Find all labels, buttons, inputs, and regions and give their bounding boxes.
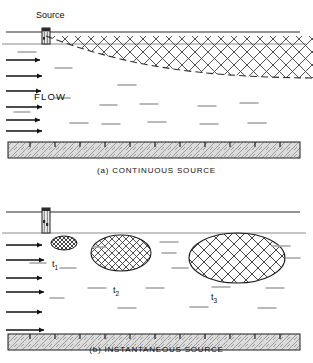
flow-arrow [6,74,42,79]
t3-sub: 3 [214,297,218,304]
source-pipe-b [42,208,50,233]
time-label-t1: t1 [52,259,58,271]
caption-panel-b: (b) INSTANTANEOUS SOURCE [0,345,313,354]
t1-sub: 1 [55,264,59,271]
flow-arrow [6,58,40,63]
flow-arrow [6,328,44,333]
panel-instantaneous-source: Source FLOW [0,190,313,363]
stream-bed [8,142,300,158]
flow-arrows-b [6,243,44,333]
cloud-t1 [51,236,77,250]
panel-continuous-source: Source FLOW [0,0,313,190]
flow-arrow [6,310,42,315]
flow-arrow [6,290,44,295]
cloud-t3 [189,233,285,283]
flow-arrow [6,129,42,134]
flow-arrow [6,276,42,281]
cloud-t2 [91,235,151,271]
flow-arrow [6,105,42,110]
t2-sub: 2 [116,290,120,297]
panel-b-graphic [0,190,313,363]
flow-arrow [6,258,44,263]
time-label-t3: t3 [211,292,217,304]
caption-panel-a: (a) CONTINUOUS SOURCE [0,166,313,175]
flow-arrow [6,243,42,248]
figure-dispersion-diagram: Source FLOW (a) CONTINUOUS SOURCE [0,0,313,363]
flow-arrow [6,118,40,123]
flow-label-a: FLOW [34,91,66,102]
source-label-a: Source [36,10,65,20]
time-label-t2: t2 [113,285,119,297]
continuous-plume [40,30,313,84]
